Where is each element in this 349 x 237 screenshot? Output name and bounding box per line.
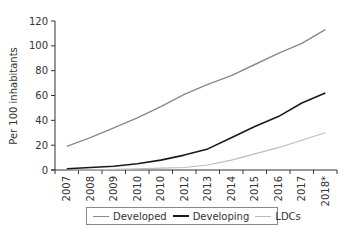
- legend-label: Developed: [113, 211, 167, 222]
- y-tick-label: 20: [35, 140, 48, 151]
- legend-item-ldcs: LDCs: [255, 211, 300, 222]
- x-tick-label: 2018*: [320, 176, 331, 206]
- x-tick-label: 2008: [85, 176, 96, 201]
- x-tick-label: 2017: [296, 176, 307, 201]
- x-tick-label: 2016: [273, 176, 284, 201]
- series-line-developed: [67, 30, 326, 147]
- x-tick-label: 2010: [132, 176, 143, 201]
- legend-label: LDCs: [275, 211, 300, 222]
- y-tick-label: 40: [35, 115, 48, 126]
- x-tick-label: 2014: [226, 176, 237, 201]
- y-tick-label: 100: [29, 40, 48, 51]
- x-tick-label: 2012: [179, 176, 190, 201]
- legend: Developed Developing LDCs: [86, 207, 278, 225]
- x-tick-label: 2009: [108, 176, 119, 201]
- x-axis: 2007200820092010201020122013201420152016…: [51, 170, 337, 206]
- y-axis: 020406080100120: [29, 16, 55, 176]
- y-tick-label: 60: [35, 90, 48, 101]
- y-tick-label: 120: [29, 16, 48, 27]
- legend-swatch-developing: [173, 215, 189, 217]
- x-tick-label: 2010: [155, 176, 166, 201]
- legend-swatch-ldcs: [255, 216, 271, 217]
- legend-item-developed: Developed: [93, 211, 167, 222]
- series-lines: [67, 30, 326, 170]
- y-axis-label: Per 100 inhabitants: [8, 47, 19, 145]
- legend-item-developing: Developing: [173, 211, 250, 222]
- y-tick-label: 0: [42, 165, 48, 176]
- x-tick-label: 2013: [202, 176, 213, 201]
- legend-swatch-developed: [93, 216, 109, 217]
- line-chart: Per 100 inhabitants 020406080100120 2007…: [0, 0, 349, 237]
- legend-label: Developing: [193, 211, 250, 222]
- x-tick-label: 2015: [249, 176, 260, 201]
- x-tick-label: 2007: [61, 176, 72, 201]
- y-tick-label: 80: [35, 65, 48, 76]
